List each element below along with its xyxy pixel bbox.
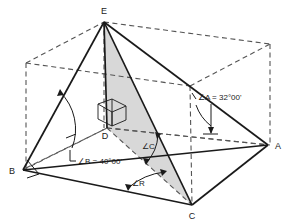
angle-a-arc: [196, 105, 211, 126]
annotation-angle-b: ∠B = 40°00': [78, 157, 122, 166]
annotation-angle-a: ∠A = 32°00': [198, 93, 242, 102]
vertex-label-b: B: [9, 166, 15, 176]
vertex-label-d: D: [102, 131, 109, 141]
angle-b-arc: [60, 92, 76, 148]
angle-a-arrowhead: [208, 127, 214, 134]
figure-svg: E B A C D ∠A = 32°00' ∠B = 40°00' ∠C ∠R: [0, 0, 288, 224]
angle-r-arrowhead-left: [125, 184, 132, 191]
box-edge-vert-front-mid: [190, 86, 192, 205]
box-edge-top-front-right: [190, 44, 270, 86]
geometry-figure: E B A C D ∠A = 32°00' ∠B = 40°00' ∠C ∠R: [0, 0, 288, 224]
edge-c-a: [192, 145, 268, 205]
angle-a-leader: [192, 93, 196, 99]
vertex-label-c: C: [189, 211, 196, 221]
annotation-angle-r: ∠R: [132, 179, 145, 188]
vertex-label-a: A: [275, 141, 281, 151]
angle-b-indicator: [57, 89, 76, 161]
vertex-label-e: E: [101, 6, 107, 16]
annotation-angle-c: ∠C: [142, 142, 155, 151]
angle-b-arrowhead-top: [57, 89, 64, 96]
